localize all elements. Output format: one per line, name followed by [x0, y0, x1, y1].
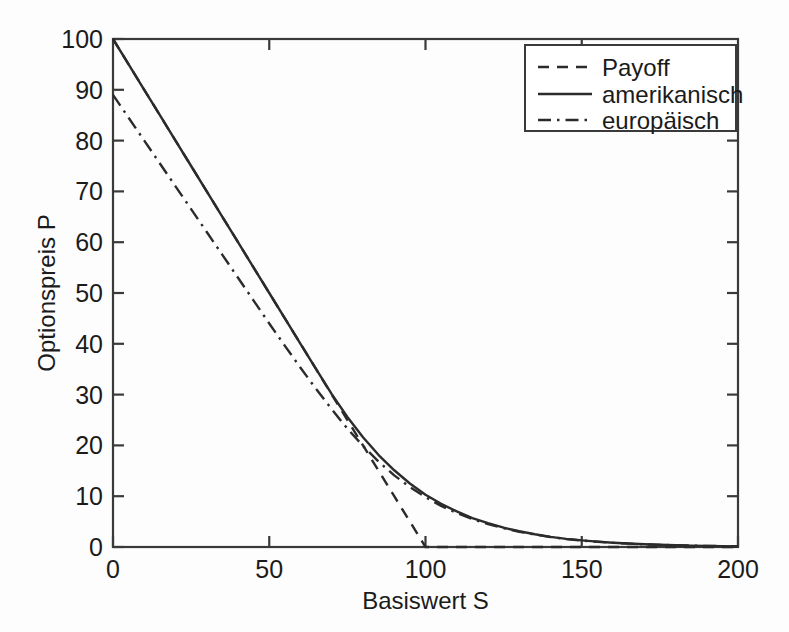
y-tick-label: 0: [89, 533, 103, 561]
x-tick-label: 200: [717, 555, 759, 583]
y-tick-label: 30: [75, 381, 103, 409]
legend-label-amerikanisch: amerikanisch: [602, 81, 743, 108]
y-tick-label: 50: [75, 279, 103, 307]
y-tick-label: 40: [75, 330, 103, 358]
option-price-chart: 0 10 20 30 40 50 60 70 80 90 100 0 50 10…: [0, 0, 789, 632]
legend-label-europaeisch: europäisch: [602, 107, 719, 134]
curve-europaeisch: [113, 95, 738, 546]
x-tick-label: 50: [255, 555, 283, 583]
x-tick-label: 100: [405, 555, 447, 583]
legend: Payoff amerikanisch europäisch: [525, 45, 743, 134]
y-tick-label: 10: [75, 482, 103, 510]
y-tick-label: 60: [75, 228, 103, 256]
y-tick-label: 70: [75, 177, 103, 205]
x-tick-labels: 0 50 100 150 200: [106, 555, 759, 583]
y-tick-label: 80: [75, 127, 103, 155]
y-tick-labels: 0 10 20 30 40 50 60 70 80 90 100: [61, 25, 103, 561]
x-axis-title: Basiswert S: [362, 587, 489, 614]
y-tick-label: 90: [75, 76, 103, 104]
y-axis-title: Optionspreis P: [33, 214, 60, 371]
y-tick-label: 100: [61, 25, 103, 53]
x-tick-label: 0: [106, 555, 120, 583]
x-tick-label: 150: [561, 555, 603, 583]
y-tick-label: 20: [75, 431, 103, 459]
figure-canvas: 0 10 20 30 40 50 60 70 80 90 100 0 50 10…: [0, 0, 789, 632]
legend-label-payoff: Payoff: [602, 54, 670, 81]
